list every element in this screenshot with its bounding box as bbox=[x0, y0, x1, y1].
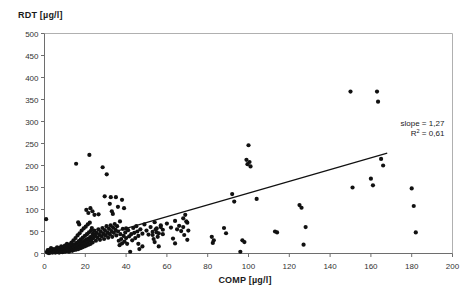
data-point bbox=[182, 233, 186, 237]
data-point bbox=[173, 219, 177, 223]
data-point bbox=[138, 227, 142, 231]
chart-figure: RDT [µg/l] COMP [µg/l] 05010015020025030… bbox=[0, 0, 476, 300]
data-point bbox=[140, 232, 144, 236]
x-tick-label: 200 bbox=[446, 262, 460, 271]
data-point bbox=[146, 232, 150, 236]
data-point bbox=[246, 143, 250, 147]
y-tick-label: 100 bbox=[25, 206, 39, 215]
y-tick-label: 250 bbox=[25, 140, 39, 149]
data-point bbox=[275, 230, 279, 234]
data-point bbox=[242, 240, 246, 244]
data-point bbox=[88, 221, 92, 225]
data-point bbox=[144, 229, 148, 233]
data-point bbox=[86, 211, 90, 215]
data-point bbox=[210, 235, 214, 239]
data-point bbox=[184, 219, 188, 223]
data-point bbox=[114, 233, 118, 237]
data-point bbox=[103, 194, 107, 198]
x-tick-label: 20 bbox=[81, 262, 90, 271]
data-point bbox=[181, 225, 185, 229]
x-tick-label: 60 bbox=[162, 262, 171, 271]
data-point bbox=[136, 234, 140, 238]
data-point bbox=[108, 202, 112, 206]
data-point bbox=[299, 206, 303, 210]
data-point bbox=[255, 197, 259, 201]
y-tick-label: 0 bbox=[34, 250, 39, 259]
y-tick-label: 150 bbox=[25, 184, 39, 193]
data-point bbox=[136, 242, 140, 246]
r-squared-annotation: R2 = 0,61 bbox=[411, 128, 445, 138]
data-point bbox=[153, 240, 157, 244]
data-point bbox=[87, 153, 91, 157]
data-point bbox=[169, 225, 173, 229]
data-point bbox=[114, 195, 118, 199]
chart-annotations: slope = 1,27R2 = 0,61 bbox=[401, 119, 445, 138]
data-point bbox=[212, 238, 216, 242]
data-point bbox=[381, 163, 385, 167]
data-point bbox=[128, 250, 132, 254]
data-point bbox=[224, 231, 228, 235]
data-point bbox=[185, 238, 189, 242]
data-point bbox=[156, 235, 160, 239]
y-tick-label: 500 bbox=[25, 30, 39, 39]
data-point bbox=[155, 230, 159, 234]
x-tick-label: 180 bbox=[405, 262, 419, 271]
data-point bbox=[186, 229, 190, 233]
data-point bbox=[247, 160, 251, 164]
data-point bbox=[379, 157, 383, 161]
data-point bbox=[44, 217, 48, 221]
data-point bbox=[101, 165, 105, 169]
data-point bbox=[125, 242, 129, 246]
y-tick-label: 200 bbox=[25, 162, 39, 171]
data-point bbox=[238, 250, 242, 254]
data-point bbox=[118, 219, 122, 223]
data-point bbox=[183, 213, 187, 217]
trendline bbox=[47, 153, 388, 251]
data-point bbox=[161, 232, 165, 236]
data-point bbox=[159, 225, 163, 229]
data-point bbox=[110, 235, 114, 239]
data-point bbox=[74, 162, 78, 166]
y-tick-label: 300 bbox=[25, 118, 39, 127]
data-point bbox=[175, 227, 179, 231]
regression-line bbox=[47, 153, 388, 251]
y-tick-label: 400 bbox=[25, 74, 39, 83]
scatter-plot-svg: 050100150200250300350400450500 020406080… bbox=[0, 0, 476, 300]
x-tick-label: 80 bbox=[203, 262, 212, 271]
data-point bbox=[414, 230, 418, 234]
y-tick-label: 50 bbox=[30, 228, 39, 237]
data-point bbox=[109, 195, 113, 199]
data-point bbox=[350, 185, 354, 189]
data-point bbox=[151, 233, 155, 237]
x-tick-label: 160 bbox=[364, 262, 378, 271]
data-point bbox=[171, 236, 175, 240]
data-point bbox=[115, 224, 119, 228]
data-point bbox=[230, 192, 234, 196]
data-point bbox=[371, 183, 375, 187]
slope-annotation: slope = 1,27 bbox=[401, 119, 445, 128]
data-point bbox=[222, 226, 226, 230]
data-point bbox=[120, 198, 124, 202]
data-point bbox=[177, 224, 181, 228]
data-point bbox=[412, 204, 416, 208]
data-point bbox=[122, 206, 126, 210]
data-point bbox=[157, 244, 161, 248]
data-point bbox=[301, 243, 305, 247]
data-point bbox=[105, 172, 109, 176]
data-point bbox=[111, 212, 115, 216]
data-point bbox=[96, 212, 100, 216]
x-tick-label: 120 bbox=[283, 262, 297, 271]
data-point bbox=[232, 199, 236, 203]
x-axis-ticks: 020406080100120140160180200 bbox=[42, 254, 459, 271]
data-point bbox=[181, 216, 185, 220]
x-tick-label: 40 bbox=[122, 262, 131, 271]
data-point bbox=[148, 225, 152, 229]
data-point bbox=[173, 241, 177, 245]
data-point bbox=[248, 164, 252, 168]
data-point bbox=[375, 89, 379, 93]
y-tick-label: 350 bbox=[25, 96, 39, 105]
data-point bbox=[165, 221, 169, 225]
x-tick-label: 140 bbox=[323, 262, 337, 271]
y-tick-label: 450 bbox=[25, 52, 39, 61]
data-point bbox=[369, 177, 373, 181]
